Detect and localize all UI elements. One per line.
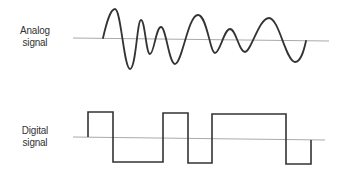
signal-diagram (0, 0, 342, 174)
analog-baseline (73, 38, 329, 41)
digital-baseline (73, 137, 325, 140)
